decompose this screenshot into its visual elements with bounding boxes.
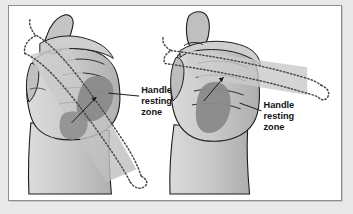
right-hand-illustration xyxy=(163,12,329,194)
figure-frame: Handle resting zone xyxy=(8,5,342,201)
left-handle-tip-top xyxy=(25,20,36,54)
right-label-line-2: resting xyxy=(263,111,294,121)
right-handle-tip-left xyxy=(163,38,171,64)
right-handle-tip-right xyxy=(318,85,329,100)
right-label: Handle resting zone xyxy=(263,100,296,132)
left-handle-tip-bottom xyxy=(130,176,147,188)
left-label-line-2: resting xyxy=(141,96,172,106)
hand-grip-diagram: Handle resting zone xyxy=(9,6,341,200)
left-label-line-1: Handle xyxy=(141,85,172,95)
left-label-line-3: zone xyxy=(141,107,162,117)
left-label: Handle resting zone xyxy=(141,85,174,117)
left-hand-illustration xyxy=(25,15,147,194)
right-label-line-3: zone xyxy=(263,122,284,132)
right-label-line-1: Handle xyxy=(263,100,294,110)
